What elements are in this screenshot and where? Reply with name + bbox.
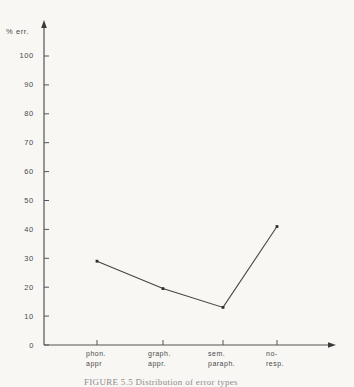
y-tick-label-70: 70 (8, 138, 34, 147)
x-tick-label-line1: phon. (86, 350, 106, 357)
figure-caption: FIGURE 5.5 Distribution of error types (84, 377, 238, 387)
y-tick-marks (44, 56, 49, 345)
y-axis-arrowhead (41, 20, 47, 28)
x-axis-arrowhead (328, 342, 336, 348)
x-tick-label-no-resp: no- resp. (266, 349, 284, 368)
data-point-marker (162, 287, 165, 290)
x-tick-label-sem-paraph: sem. paraph. (208, 349, 235, 368)
y-tick-label-100: 100 (8, 51, 34, 60)
y-tick-label-20: 20 (8, 283, 34, 292)
y-axis-title: % err. (6, 27, 29, 36)
y-tick-label-50: 50 (8, 196, 34, 205)
x-tick-label-line2: appr. (148, 359, 171, 369)
x-tick-marks (97, 340, 277, 345)
line-chart-plot (0, 0, 354, 387)
y-tick-label-60: 60 (8, 167, 34, 176)
y-tick-label-80: 80 (8, 109, 34, 118)
x-tick-label-line2: resp. (266, 359, 284, 369)
x-tick-label-graph-appr: graph. appr. (148, 349, 171, 368)
x-tick-label-line1: sem. (208, 350, 225, 357)
y-tick-label-40: 40 (8, 225, 34, 234)
y-tick-label-10: 10 (8, 312, 34, 321)
figure-container: % err. 0 10 20 30 40 50 60 70 80 90 100 … (0, 0, 354, 387)
data-series-line (97, 227, 277, 308)
data-point-marker (222, 306, 225, 309)
y-tick-label-0: 0 (8, 341, 34, 350)
x-tick-label-line1: no- (266, 350, 278, 357)
x-tick-label-phon-appr: phon. appr (86, 349, 106, 368)
data-point-marker (276, 225, 279, 228)
data-point-marker (96, 260, 99, 263)
y-tick-label-90: 90 (8, 80, 34, 89)
x-tick-label-line2: appr (86, 359, 106, 369)
x-tick-label-line1: graph. (148, 350, 171, 357)
x-tick-label-line2: paraph. (208, 359, 235, 369)
y-tick-label-30: 30 (8, 254, 34, 263)
